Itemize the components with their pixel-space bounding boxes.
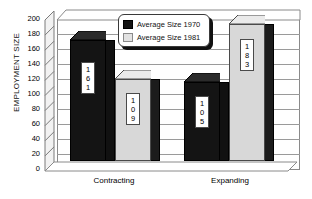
bar-contracting-1981[interactable]: 1 0 9 bbox=[115, 79, 151, 161]
legend-entry-1981[interactable]: Average Size 1981 bbox=[123, 31, 205, 44]
y-tick-label: 40 bbox=[16, 135, 40, 143]
x-axis-label-expanding: Expanding bbox=[195, 176, 265, 185]
y-tick-label: 200 bbox=[16, 15, 40, 23]
y-tick-label: 80 bbox=[16, 105, 40, 113]
bar-value-label: 1 6 1 bbox=[81, 62, 95, 94]
bar-top-face bbox=[184, 73, 220, 82]
bar-top-face bbox=[115, 70, 151, 79]
y-tick-label: 160 bbox=[16, 45, 40, 53]
bar-chart: EMPLOYMENT SIZE 200 180 160 140 120 100 … bbox=[0, 0, 312, 199]
y-tick-label: 120 bbox=[16, 75, 40, 83]
bar-contracting-1970[interactable]: 1 6 1 bbox=[70, 40, 106, 161]
y-tick-label: 20 bbox=[16, 150, 40, 158]
y-axis-tick-labels: 200 180 160 140 120 100 80 60 40 20 0 bbox=[14, 10, 40, 170]
y-tick-label: 140 bbox=[16, 60, 40, 68]
bar-side-face bbox=[151, 79, 160, 161]
x-axis-label-contracting: Contracting bbox=[79, 176, 149, 185]
chart-legend: Average Size 1970 Average Size 1981 bbox=[118, 14, 210, 47]
bar-expanding-1970[interactable]: 1 0 5 bbox=[184, 82, 220, 161]
legend-label: Average Size 1981 bbox=[137, 33, 200, 42]
legend-label: Average Size 1970 bbox=[137, 20, 200, 29]
y-tick-label: 0 bbox=[16, 165, 40, 173]
bar-front-face bbox=[70, 40, 106, 161]
bar-expanding-1981[interactable]: 1 8 3 bbox=[229, 24, 265, 161]
bar-top-face bbox=[229, 15, 265, 24]
legend-swatch-icon bbox=[123, 33, 133, 42]
y-tick-label: 60 bbox=[16, 120, 40, 128]
legend-entry-1970[interactable]: Average Size 1970 bbox=[123, 18, 205, 31]
bar-side-face bbox=[106, 40, 115, 161]
legend-box: Average Size 1970 Average Size 1981 bbox=[118, 14, 210, 47]
bar-side-face bbox=[220, 82, 229, 161]
legend-swatch-icon bbox=[123, 20, 133, 29]
bar-value-label: 1 0 5 bbox=[195, 96, 209, 128]
bar-top-face bbox=[70, 31, 106, 40]
bar-value-label: 1 8 3 bbox=[240, 39, 254, 71]
bar-side-face bbox=[265, 24, 274, 161]
y-tick-label: 180 bbox=[16, 30, 40, 38]
bar-value-label: 1 0 9 bbox=[126, 93, 140, 125]
y-tick-label: 100 bbox=[16, 90, 40, 98]
x-axis-category-labels: Contracting Expanding bbox=[45, 176, 303, 190]
